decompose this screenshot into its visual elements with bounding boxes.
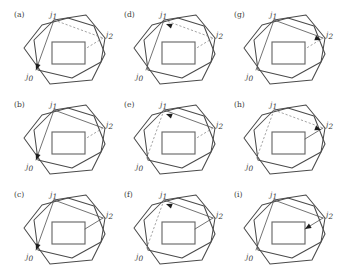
- edge-j2-rect: [85, 218, 103, 229]
- label-j1: j1: [48, 10, 57, 21]
- label-j0: j0: [24, 162, 34, 173]
- panel-tag: (e): [124, 100, 134, 109]
- inner-rectangle: [52, 42, 85, 64]
- panel-a: (a)j1j2j0: [8, 4, 118, 94]
- panel-e: (e)j1j2j0: [118, 94, 228, 184]
- label-j2: j2: [104, 120, 114, 131]
- outer-polygon: [244, 18, 325, 84]
- edge-j1-j0: [256, 20, 274, 70]
- label-j1: j1: [158, 100, 167, 111]
- edge-j2-rect: [85, 38, 103, 49]
- inner-rectangle: [272, 42, 305, 64]
- outer-polygon: [134, 18, 215, 84]
- label-j0: j0: [244, 162, 254, 173]
- label-j1: j1: [268, 190, 277, 201]
- edge-j2-rect: [85, 128, 103, 139]
- outer-polygon: [134, 198, 215, 264]
- label-j2: j2: [324, 120, 334, 131]
- inner-rectangle: [52, 222, 85, 244]
- inner-rectangle: [162, 132, 195, 154]
- arrowhead-rect: [305, 224, 312, 229]
- outer-polygon: [134, 108, 215, 174]
- label-j1: j1: [268, 10, 277, 21]
- edge-j1-j0: [146, 20, 164, 70]
- panel-c: (c)j1j2j0: [8, 184, 118, 274]
- label-j2: j2: [104, 210, 114, 221]
- label-j1: j1: [268, 100, 277, 111]
- label-j1: j1: [48, 100, 57, 111]
- outer-polygon: [244, 108, 325, 174]
- label-j1: j1: [158, 190, 167, 201]
- panel-tag: (a): [14, 10, 24, 19]
- label-j2: j2: [214, 210, 224, 221]
- label-j2: j2: [214, 30, 224, 41]
- edge-j2-rect: [195, 38, 213, 49]
- label-j0: j0: [134, 252, 144, 263]
- label-j0: j0: [244, 72, 254, 83]
- panel-tag: (f): [124, 190, 133, 199]
- edge-j2-rect: [195, 128, 213, 139]
- outer-polygon: [244, 198, 325, 264]
- label-j2: j2: [214, 120, 224, 131]
- edge-j1-j0: [256, 200, 274, 250]
- panel-tag: (d): [124, 10, 135, 19]
- inner-rectangle: [162, 42, 195, 64]
- panel-g: (g)j1j2j0: [228, 4, 338, 94]
- edge-j1-j0: [256, 110, 274, 160]
- inner-rectangle: [52, 132, 85, 154]
- figure-polygon-transition-grid: (a)j1j2j0(b)j1j2j0(c)j1j2j0(d)j1j2j0(e)j…: [0, 0, 344, 276]
- outer-polygon: [24, 18, 105, 84]
- label-j1: j1: [48, 190, 57, 201]
- panel-tag: (g): [234, 10, 245, 19]
- edge-j1-j0: [36, 110, 54, 160]
- edge-j1-j0: [146, 110, 164, 160]
- edge-j1-j0: [36, 200, 54, 250]
- panel-tag: (c): [14, 190, 24, 199]
- inner-rectangle: [162, 222, 195, 244]
- label-j0: j0: [244, 252, 254, 263]
- panel-tag: (b): [14, 100, 25, 109]
- panel-f: (f)j1j2j0: [118, 184, 228, 274]
- panel-tag: (i): [234, 190, 242, 199]
- label-j1: j1: [158, 10, 167, 21]
- edge-j1-j0: [146, 200, 164, 250]
- panel-d: (d)j1j2j0: [118, 4, 228, 94]
- edge-j2-rect: [195, 218, 213, 229]
- arrowhead-j1: [166, 204, 173, 209]
- panel-tag: (h): [234, 100, 245, 109]
- label-j2: j2: [104, 30, 114, 41]
- edge-j1-j0: [36, 20, 54, 70]
- arrowhead-j1: [166, 114, 173, 119]
- inner-rectangle: [272, 132, 305, 154]
- label-j0: j0: [24, 72, 34, 83]
- label-j0: j0: [134, 162, 144, 173]
- inner-rectangle: [272, 222, 305, 244]
- label-j2: j2: [324, 210, 334, 221]
- panel-b: (b)j1j2j0: [8, 94, 118, 184]
- label-j0: j0: [134, 72, 144, 83]
- label-j0: j0: [24, 252, 34, 263]
- label-j2: j2: [324, 30, 334, 41]
- outer-polygon: [24, 108, 105, 174]
- panel-h: (h)j1j2j0: [228, 94, 338, 184]
- arrowhead-j1: [166, 24, 173, 29]
- outer-polygon: [24, 198, 105, 264]
- panel-i: (i)j1j2j0: [228, 184, 338, 274]
